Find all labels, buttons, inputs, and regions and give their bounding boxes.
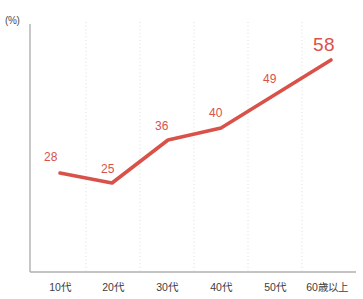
x-tick-label-3: 40代 xyxy=(210,279,232,294)
data-label-2: 36 xyxy=(155,119,169,133)
data-label-0: 28 xyxy=(44,150,58,164)
data-label-1: 25 xyxy=(101,162,115,176)
data-label-4: 49 xyxy=(263,72,277,86)
y-axis-unit-label: (%) xyxy=(5,15,20,26)
x-tick-label-0: 10代 xyxy=(49,279,71,294)
data-label-5: 58 xyxy=(313,34,335,56)
data-label-3: 40 xyxy=(209,106,223,120)
x-tick-label-5: 60歳以上 xyxy=(306,279,348,294)
line-chart: (%) 28 25 36 40 49 58 10代 20代 30代 40代 50… xyxy=(0,0,363,299)
gridlines xyxy=(86,22,302,271)
x-tick-label-1: 20代 xyxy=(102,279,124,294)
x-tick-label-2: 30代 xyxy=(156,279,178,294)
x-tick-label-4: 50代 xyxy=(264,279,286,294)
